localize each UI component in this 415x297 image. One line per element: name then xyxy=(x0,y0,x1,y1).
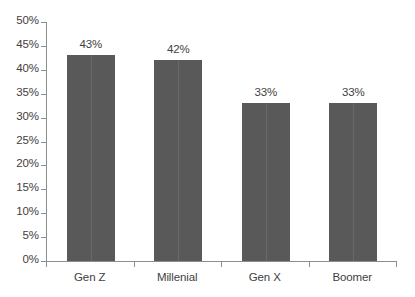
y-axis-tick-mark xyxy=(41,118,46,119)
y-axis-tick-label: 15% xyxy=(16,181,39,193)
plot-area: 43%42%33%33% xyxy=(47,22,397,261)
x-axis-tick-mark xyxy=(309,262,310,267)
x-axis-category-label: Gen X xyxy=(221,271,309,283)
x-axis-tick-mark xyxy=(46,262,47,267)
y-axis-tick-mark xyxy=(41,165,46,166)
y-axis-tick-label: 30% xyxy=(16,110,39,122)
x-axis-tick-mark xyxy=(221,262,222,267)
y-axis-tick-mark xyxy=(41,189,46,190)
y-axis-tick-mark xyxy=(41,22,46,23)
bar-group: 42% xyxy=(135,22,223,261)
y-axis-tick-label: 35% xyxy=(16,86,39,98)
y-axis-tick-label: 40% xyxy=(16,62,39,74)
bar-value-label: 33% xyxy=(342,86,365,98)
y-axis-tick-mark xyxy=(41,237,46,238)
x-axis-category-label: Gen Z xyxy=(46,271,134,283)
y-axis-tick-label: 20% xyxy=(16,157,39,169)
bar-seam xyxy=(266,103,267,261)
y-axis-tick-label: 25% xyxy=(16,134,39,146)
y-axis-tick-mark xyxy=(41,94,46,95)
bar-value-label: 43% xyxy=(79,38,102,50)
y-axis-tick-label: 0% xyxy=(23,253,39,265)
y-axis-tick-label: 10% xyxy=(16,205,39,217)
y-axis-tick-mark xyxy=(41,142,46,143)
bar-chart: 0%5%10%15%20%25%30%35%40%45%50% 43%42%33… xyxy=(0,0,415,297)
x-axis-category-label: Millenial xyxy=(134,271,222,283)
y-axis-tick-mark xyxy=(41,70,46,71)
bar-group: 33% xyxy=(222,22,310,261)
bar-seam xyxy=(178,60,179,261)
y-axis-tick-mark xyxy=(41,46,46,47)
x-axis-category-label: Boomer xyxy=(309,271,397,283)
bar-group: 43% xyxy=(47,22,135,261)
bar[interactable] xyxy=(67,55,115,261)
bar[interactable] xyxy=(154,60,202,261)
bar-value-label: 42% xyxy=(167,43,190,55)
x-axis-tick-mark xyxy=(134,262,135,267)
bar-value-label: 33% xyxy=(254,86,277,98)
x-axis-tick-mark xyxy=(396,262,397,267)
bar[interactable] xyxy=(242,103,290,261)
bar-group: 33% xyxy=(310,22,398,261)
bar-seam xyxy=(353,103,354,261)
y-axis-tick-mark xyxy=(41,213,46,214)
y-axis-tick-label: 45% xyxy=(16,38,39,50)
bar-seam xyxy=(91,55,92,261)
y-axis-tick-label: 5% xyxy=(23,229,39,241)
bar[interactable] xyxy=(329,103,377,261)
y-axis-tick-label: 50% xyxy=(16,14,39,26)
